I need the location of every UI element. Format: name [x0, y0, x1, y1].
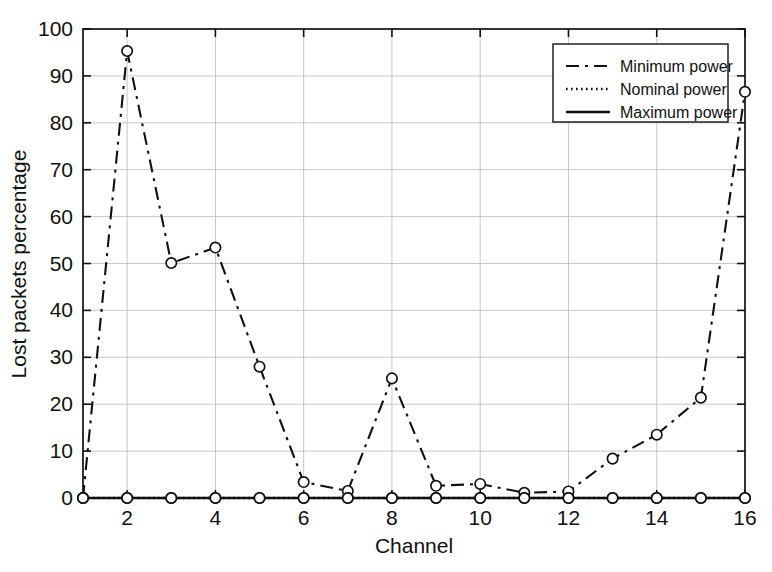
x-tick-label: 6: [298, 506, 310, 529]
x-tick-label: 12: [557, 506, 580, 529]
y-tick-label: 100: [38, 17, 73, 40]
y-tick-label: 90: [50, 64, 73, 87]
y-tick-label: 60: [50, 205, 73, 228]
data-point-marker: [387, 373, 397, 383]
data-point-marker: [343, 493, 353, 503]
data-point-marker: [254, 493, 264, 503]
data-point-marker: [298, 477, 308, 487]
data-point-marker: [166, 258, 176, 268]
data-point-marker: [78, 493, 88, 503]
data-point-marker: [475, 493, 485, 503]
x-tick-label: 10: [469, 506, 492, 529]
x-tick-label: 16: [733, 506, 756, 529]
line-chart: 0102030405060708090100 246810121416 Chan…: [0, 0, 772, 572]
data-point-marker: [652, 493, 662, 503]
data-point-marker: [431, 493, 441, 503]
data-point-marker: [652, 429, 662, 439]
y-tick-label: 0: [61, 486, 73, 509]
x-tick-label: 8: [386, 506, 398, 529]
data-point-marker: [696, 392, 706, 402]
data-point-marker: [607, 493, 617, 503]
data-point-marker: [740, 87, 750, 97]
data-point-marker: [475, 479, 485, 489]
data-point-marker: [122, 493, 132, 503]
y-tick-label: 50: [50, 252, 73, 275]
data-point-marker: [563, 493, 573, 503]
data-point-marker: [122, 46, 132, 56]
y-tick-label: 40: [50, 298, 73, 321]
x-tick-label: 14: [645, 506, 669, 529]
data-point-marker: [696, 493, 706, 503]
legend-label: Maximum power: [620, 104, 738, 121]
data-point-marker: [387, 493, 397, 503]
x-tick-label: 4: [210, 506, 222, 529]
data-point-marker: [254, 361, 264, 371]
data-point-marker: [166, 493, 176, 503]
chart-legend: Minimum powerNominal powerMaximum power: [553, 44, 738, 122]
legend-label: Nominal power: [620, 81, 727, 98]
x-tick-label: 2: [121, 506, 133, 529]
data-point-marker: [210, 242, 220, 252]
series-3: [78, 493, 750, 503]
data-point-marker: [519, 493, 529, 503]
data-point-marker: [210, 493, 220, 503]
legend-label: Minimum power: [620, 58, 734, 75]
x-axis-title: Channel: [375, 534, 453, 557]
y-tick-label: 80: [50, 111, 73, 134]
y-tick-label: 20: [50, 392, 73, 415]
data-point-marker: [607, 453, 617, 463]
y-tick-label: 30: [50, 345, 73, 368]
data-point-marker: [431, 481, 441, 491]
data-point-marker: [298, 493, 308, 503]
y-axis-title: Lost packets percentage: [7, 150, 30, 379]
data-point-marker: [740, 493, 750, 503]
y-tick-label: 70: [50, 158, 73, 181]
chart-figure: 0102030405060708090100 246810121416 Chan…: [0, 0, 772, 572]
y-tick-label: 10: [50, 439, 73, 462]
